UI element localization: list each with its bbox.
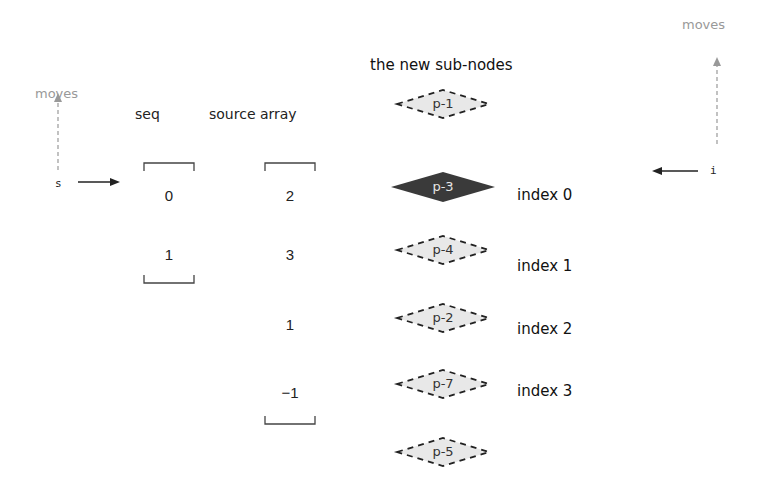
seq-header: seq [135, 106, 160, 122]
node-p-5: p-5 [391, 437, 495, 467]
node-label: p-3 [391, 172, 495, 202]
new-subnodes-title: the new sub-nodes [370, 56, 513, 74]
index-label: index 0 [517, 186, 572, 204]
i-pointer-arrow-icon [652, 165, 700, 177]
source-value: 1 [270, 316, 310, 333]
left-moves-dashed-arrow-icon [50, 92, 66, 172]
seq-open-bracket [143, 162, 195, 172]
seq-value: 1 [149, 246, 189, 263]
node-p-7: p-7 [391, 369, 495, 399]
node-p-3: p-3 [391, 172, 495, 202]
source-close-bracket [264, 415, 316, 425]
source-value: −1 [270, 384, 310, 401]
node-label: p-2 [391, 303, 495, 333]
source-value: 2 [270, 187, 310, 204]
seq-pointer-s: s [55, 177, 62, 190]
node-p-4: p-4 [391, 235, 495, 265]
s-pointer-arrow-icon [78, 176, 122, 188]
source-open-bracket [264, 162, 316, 172]
right-moves-label: moves [682, 17, 725, 32]
right-moves-dashed-arrow-icon [709, 56, 725, 146]
node-p-1: p-1 [391, 89, 495, 119]
node-label: p-5 [391, 437, 495, 467]
source-array-header: source array [209, 106, 297, 122]
index-label: index 2 [517, 320, 572, 338]
seq-close-bracket [143, 274, 195, 284]
source-value: 3 [270, 246, 310, 263]
index-label: index 1 [517, 257, 572, 275]
node-p-2: p-2 [391, 303, 495, 333]
node-label: p-1 [391, 89, 495, 119]
node-label: p-4 [391, 235, 495, 265]
seq-value: 0 [149, 187, 189, 204]
source-pointer-i: i [710, 164, 717, 177]
node-label: p-7 [391, 369, 495, 399]
index-label: index 3 [517, 382, 572, 400]
